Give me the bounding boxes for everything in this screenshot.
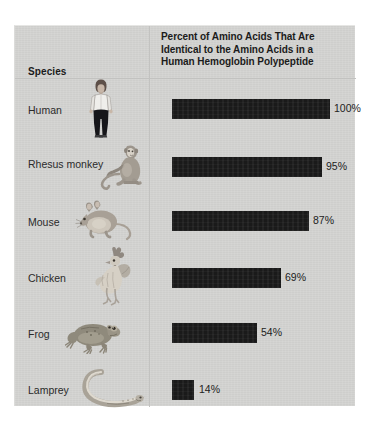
bar	[172, 380, 194, 400]
bar-value-label: 100%	[334, 102, 361, 114]
species-label: Lamprey	[28, 384, 69, 396]
frog-icon	[65, 314, 127, 354]
bar-track: 100%	[157, 82, 356, 138]
bar	[172, 323, 257, 343]
bar-value-label: 95%	[326, 160, 347, 172]
chart-row: Lamprey 14%	[15, 362, 356, 418]
bar	[172, 268, 281, 288]
chart-row: Chicken 69%	[15, 250, 356, 306]
lamprey-icon	[77, 366, 147, 414]
species-label: Mouse	[28, 216, 60, 228]
rhesus-monkey-icon	[97, 140, 147, 190]
hemoglobin-identity-figure: Species Percent of Amino Acids That Are …	[14, 25, 355, 406]
bar-value-label: 54%	[261, 326, 282, 338]
chart-row: Frog	[15, 306, 356, 362]
human-figure-icon	[81, 79, 121, 141]
bar	[172, 99, 330, 119]
species-label: Frog	[28, 328, 50, 340]
mouse-icon	[75, 194, 135, 244]
species-column-header: Species	[28, 66, 67, 77]
bar	[172, 211, 309, 231]
bar-track: 54%	[157, 306, 356, 362]
bar-value-label: 14%	[199, 383, 220, 395]
chicken-icon	[77, 244, 133, 306]
chart-title-line-3: Human Hemoglobin Polypeptide	[161, 56, 351, 69]
bar-track: 69%	[157, 250, 356, 306]
chart-title-line-1: Percent of Amino Acids That Are	[161, 31, 351, 44]
chart-row: Rhesus monkey 95%	[15, 138, 356, 194]
chart-row: Human 100%	[15, 82, 356, 138]
bar	[172, 157, 322, 177]
species-label: Chicken	[28, 272, 66, 284]
bar-track: 95%	[157, 138, 356, 194]
bar-track: 87%	[157, 194, 356, 250]
header-divider-rule	[15, 78, 356, 79]
chart-row: Mouse 87%	[15, 194, 356, 250]
bar-value-label: 69%	[285, 271, 306, 283]
bar-value-label: 87%	[313, 214, 334, 226]
chart-title: Percent of Amino Acids That Are Identica…	[161, 31, 351, 69]
species-label: Human	[28, 104, 62, 116]
chart-title-line-2: Identical to the Amino Acids in a	[161, 44, 351, 57]
species-label: Rhesus monkey	[28, 158, 103, 170]
bar-track: 14%	[157, 362, 356, 418]
